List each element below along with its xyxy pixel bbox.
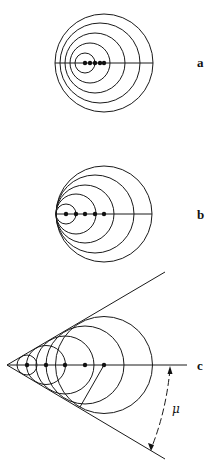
mach-cone-diagram: a b μ c [0, 0, 219, 475]
source-dot [102, 212, 106, 216]
panel-a: a [55, 14, 204, 112]
angle-arc [151, 369, 170, 449]
source-dot [88, 61, 92, 65]
source-dot [83, 61, 87, 65]
panel-label-b: b [197, 207, 204, 222]
panel-label-a: a [197, 55, 204, 70]
source-dot [83, 212, 87, 216]
mach-angle-label: μ [172, 402, 180, 416]
source-dot [83, 363, 87, 367]
panel-label-c: c [197, 358, 203, 373]
panel-b: b [56, 166, 204, 262]
panel-c: μ c [7, 272, 203, 459]
source-dot [44, 363, 48, 367]
mach-cone-lower-line [7, 365, 165, 459]
source-dot [93, 212, 97, 216]
source-dot [93, 61, 97, 65]
arrow-head-up-icon [168, 366, 173, 374]
source-dot [64, 212, 68, 216]
source-dot [102, 61, 106, 65]
source-dot [63, 363, 67, 367]
mach-cone-upper-line [7, 272, 165, 365]
source-dot [98, 61, 102, 65]
source-dot [25, 363, 29, 367]
source-dot [74, 212, 78, 216]
